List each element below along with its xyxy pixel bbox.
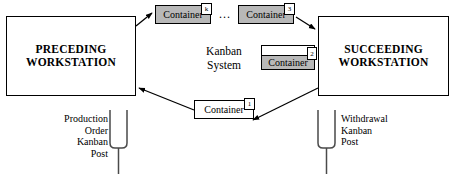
arrow-container-3-to-succeeding bbox=[296, 17, 315, 29]
container-k: Container k bbox=[155, 5, 211, 24]
workstation-succeeding: SUCCEEDING WORKSTATION bbox=[318, 16, 449, 96]
arrow-container-1-to-preceding bbox=[139, 88, 194, 110]
container-1-tag: 1 bbox=[244, 98, 255, 110]
container-3: Container 3 bbox=[238, 5, 294, 24]
arrow-succeeding-to-container-1 bbox=[253, 88, 318, 120]
container-2: Container 2 bbox=[261, 45, 315, 70]
kanban-system-label: Kanban System bbox=[190, 44, 258, 72]
container-2-tag: 2 bbox=[307, 47, 317, 60]
production-order-kanban-post-icon bbox=[110, 110, 127, 174]
container-sequence-ellipsis: ... bbox=[214, 8, 236, 20]
workstation-preceding-label: PRECEDING WORKSTATION bbox=[26, 43, 116, 70]
withdrawal-kanban-post-label: Withdrawal Kanban Post bbox=[341, 113, 401, 148]
container-3-tag: 3 bbox=[284, 3, 295, 15]
kanban-system-diagram: PRECEDING WORKSTATION SUCCEEDING WORKSTA… bbox=[0, 0, 455, 176]
arrow-preceding-to-container-k bbox=[136, 13, 152, 26]
workstation-preceding: PRECEDING WORKSTATION bbox=[6, 16, 136, 96]
container-k-tag: k bbox=[201, 3, 212, 15]
production-order-kanban-post-label: Production Order Kanban Post bbox=[58, 113, 108, 159]
container-1: Container 1 bbox=[194, 100, 254, 119]
withdrawal-kanban-post-icon bbox=[318, 110, 335, 174]
workstation-succeeding-label: SUCCEEDING WORKSTATION bbox=[339, 43, 429, 70]
